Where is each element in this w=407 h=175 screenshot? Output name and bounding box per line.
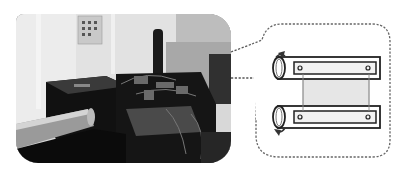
leader-line-bottom [231, 78, 256, 120]
leader-line-top [231, 44, 252, 52]
roller-schematic-callout [0, 0, 407, 175]
